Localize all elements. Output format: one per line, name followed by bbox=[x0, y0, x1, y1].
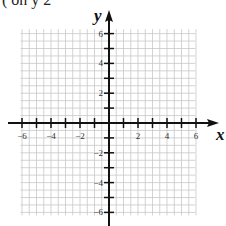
x-tick-label: −6 bbox=[17, 131, 27, 141]
y-tick-label: 4 bbox=[99, 58, 104, 68]
y-tick-label: 6 bbox=[99, 29, 104, 39]
x-tick-label: −2 bbox=[75, 131, 85, 141]
y-tick-label: −2 bbox=[93, 148, 103, 158]
y-axis-label: y bbox=[92, 6, 102, 25]
x-tick-label: −4 bbox=[46, 131, 56, 141]
y-tick-label: −6 bbox=[93, 207, 103, 217]
x-tick-label: 2 bbox=[136, 131, 141, 141]
y-tick-label: 2 bbox=[99, 88, 104, 98]
coordinate-grid[interactable]: −6−4−2246642−2−4−6xy bbox=[0, 0, 226, 226]
x-tick-label: 6 bbox=[194, 131, 199, 141]
x-axis-label: x bbox=[215, 125, 225, 144]
x-tick-label: 4 bbox=[165, 131, 170, 141]
y-tick-label: −4 bbox=[93, 178, 103, 188]
